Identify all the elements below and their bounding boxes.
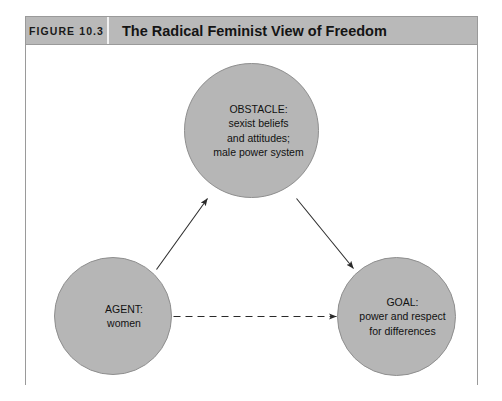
node-agent-line-2: women <box>105 316 143 331</box>
figure-number-cell: FIGURE 10.3 <box>26 17 109 44</box>
figure-number-label: FIGURE 10.3 <box>29 25 104 37</box>
node-obstacle[interactable]: OBSTACLE: sexist beliefs and attitudes; … <box>184 63 319 198</box>
node-goal-line-2: power and respect <box>359 309 445 324</box>
figure-root: FIGURE 10.3 The Radical Feminist View of… <box>0 0 502 401</box>
figure-frame: FIGURE 10.3 The Radical Feminist View of… <box>25 16 478 385</box>
figure-header-bar: FIGURE 10.3 The Radical Feminist View of… <box>26 17 477 45</box>
edge-obstacle-to-goal <box>297 199 354 269</box>
edge-agent-to-obstacle <box>157 199 208 270</box>
node-goal-line-1: GOAL: <box>359 295 445 310</box>
node-obstacle-line-3: and attitudes; <box>213 131 303 146</box>
node-goal[interactable]: GOAL: power and respect for differences <box>337 257 456 376</box>
node-agent[interactable]: AGENT: women <box>54 257 172 375</box>
node-obstacle-line-2: sexist beliefs <box>213 116 303 131</box>
figure-title-cell: The Radical Feminist View of Freedom <box>109 17 477 44</box>
node-agent-text: AGENT: women <box>105 302 143 331</box>
node-agent-line-1: AGENT: <box>105 302 143 317</box>
node-obstacle-line-4: male power system <box>213 145 303 160</box>
diagram-canvas: OBSTACLE: sexist beliefs and attitudes; … <box>26 45 477 385</box>
node-obstacle-line-1: OBSTACLE: <box>213 102 303 117</box>
node-goal-line-3: for differences <box>359 324 445 339</box>
figure-title: The Radical Feminist View of Freedom <box>122 23 387 39</box>
node-goal-text: GOAL: power and respect for differences <box>359 295 445 339</box>
node-obstacle-text: OBSTACLE: sexist beliefs and attitudes; … <box>213 102 303 160</box>
